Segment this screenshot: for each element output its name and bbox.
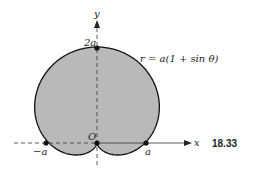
point-left [43, 140, 48, 145]
y-axis-arrow-icon [94, 20, 100, 28]
label-minus-a: −a [33, 147, 47, 157]
figure-number: 18.33 [212, 139, 237, 149]
point-right [143, 140, 148, 145]
origin-label: O [88, 132, 96, 142]
x-axis-label: x [194, 138, 200, 148]
label-a: a [145, 147, 151, 157]
equation-label: r = a(1 + sin θ) [140, 54, 218, 64]
y-axis-label: y [94, 9, 100, 19]
label-2a: 2a [84, 38, 96, 48]
x-axis-arrow-icon [184, 140, 192, 146]
